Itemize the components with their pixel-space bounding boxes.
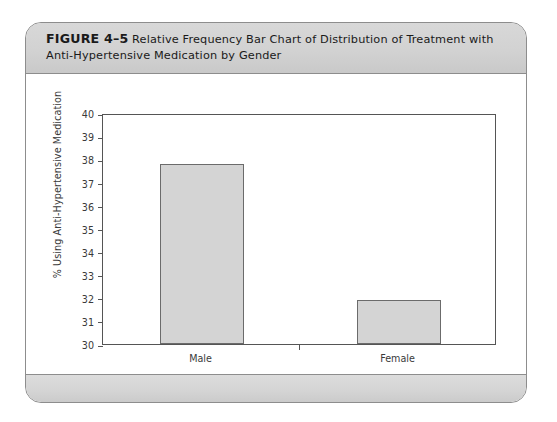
y-axis-tick-mark xyxy=(98,138,103,139)
y-axis-tick-mark xyxy=(98,299,103,300)
y-axis-tick-label: 36 xyxy=(82,203,98,213)
y-axis-tick-mark xyxy=(98,276,103,277)
y-axis-tick-label: 37 xyxy=(82,180,98,190)
bar xyxy=(160,164,244,344)
y-axis-title: % Using Anti-Hypertensive Medication xyxy=(52,85,63,285)
y-axis-tick-label: 40 xyxy=(82,110,98,120)
y-axis-tick-label: 39 xyxy=(82,133,98,143)
y-axis-tick-label: 38 xyxy=(82,156,98,166)
y-axis-tick-label: 32 xyxy=(82,295,98,305)
y-axis-tick-mark xyxy=(98,161,103,162)
figure-caption: FIGURE 4–5 Relative Frequency Bar Chart … xyxy=(46,31,510,63)
plot-area: 4039383736353433323130 xyxy=(102,114,496,345)
x-axis-category-label: Female xyxy=(380,353,415,364)
y-axis-tick-mark xyxy=(98,115,103,116)
y-axis-tick-mark xyxy=(98,207,103,208)
chart-body: % Using Anti-Hypertensive Medication 403… xyxy=(26,74,526,374)
y-axis-tick-mark xyxy=(98,322,103,323)
bar xyxy=(357,300,441,344)
y-axis-tick-mark xyxy=(98,346,103,347)
x-axis-mid-tick xyxy=(299,344,300,350)
y-axis-tick-label: 34 xyxy=(82,249,98,259)
figure-footer xyxy=(26,374,526,402)
y-axis-tick-mark xyxy=(98,184,103,185)
y-axis-tick-label: 31 xyxy=(82,318,98,328)
y-axis-tick-label: 30 xyxy=(82,341,98,351)
y-axis-tick-label: 33 xyxy=(82,272,98,282)
figure-header: FIGURE 4–5 Relative Frequency Bar Chart … xyxy=(26,23,526,74)
y-axis-tick-label: 35 xyxy=(82,226,98,236)
figure-card: FIGURE 4–5 Relative Frequency Bar Chart … xyxy=(25,22,527,403)
y-axis-tick-mark xyxy=(98,230,103,231)
figure-number: FIGURE 4–5 xyxy=(46,31,128,46)
x-axis-category-label: Male xyxy=(189,353,212,364)
y-axis-tick-mark xyxy=(98,253,103,254)
